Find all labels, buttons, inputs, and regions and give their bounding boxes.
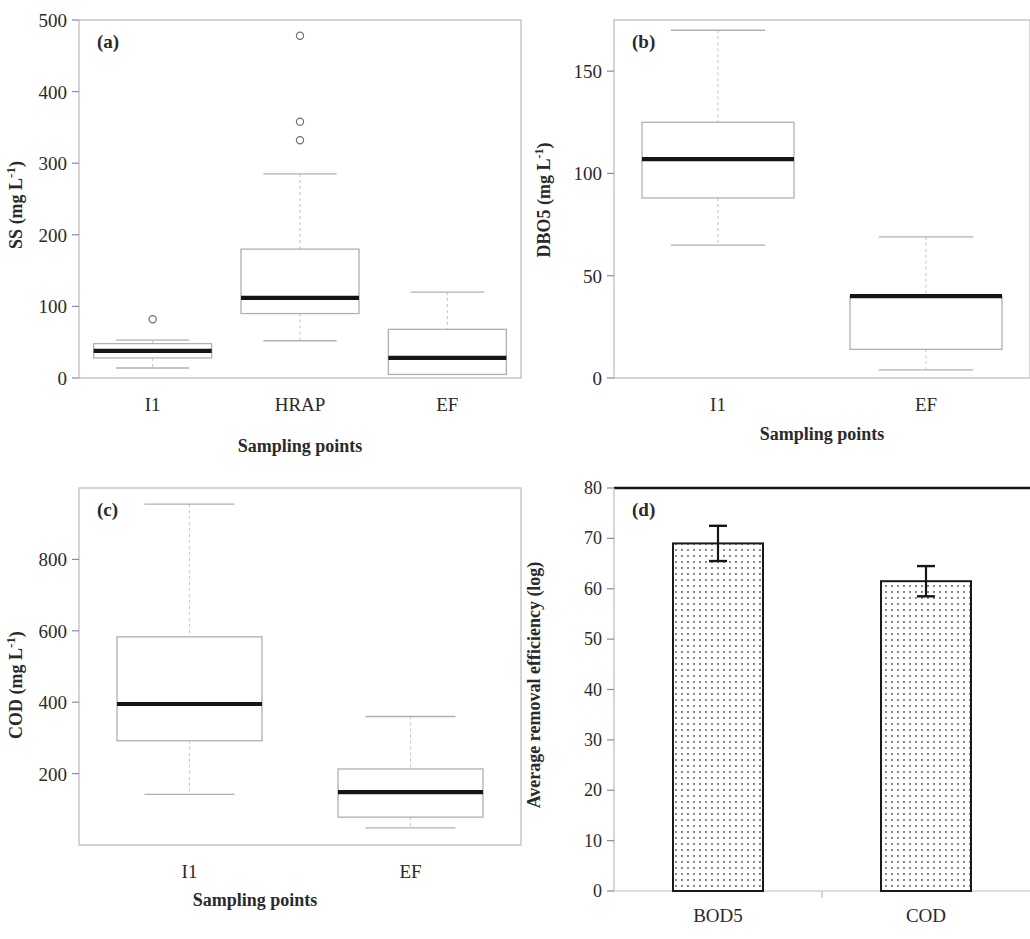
y-tick-label: 80: [584, 478, 602, 498]
svg-text:DBO5 (mg L-1): DBO5 (mg L-1): [532, 142, 555, 257]
y-axis-title: COD (mg L-1): [3, 631, 28, 739]
y-tick-label: 20: [584, 780, 602, 800]
y-axis-ticks: 01020304050607080: [584, 478, 614, 901]
svg-text:Average removal efficiency (lo: Average removal efficiency (log): [524, 562, 545, 809]
x-category-label: COD: [906, 905, 946, 926]
panel-d: 01020304050607080BOD5COD(d)Organic param…: [500, 470, 1030, 939]
panel-letter: (b): [632, 31, 655, 53]
y-tick-label: 100: [39, 296, 68, 317]
x-axis-title: Sampling points: [193, 890, 318, 910]
panel-a: 0100200300400500I1HRAPEF(a)Sampling poin…: [0, 0, 530, 470]
y-tick-label: 800: [39, 549, 68, 570]
y-tick-label: 70: [584, 528, 602, 548]
y-tick-label: 600: [39, 621, 68, 642]
y-tick-label: 50: [583, 266, 602, 287]
box-iqr: [241, 249, 359, 313]
panel-c-chart: 200400600800I1EF(c)Sampling pointsCOD (m…: [0, 470, 530, 939]
y-tick-label: 150: [574, 61, 603, 82]
plot-area: 01020304050607080BOD5COD(d): [584, 478, 1030, 926]
panel-letter: (a): [97, 31, 119, 53]
y-tick-label: 400: [39, 692, 68, 713]
x-category-label: I1: [145, 394, 161, 415]
y-tick-label: 0: [58, 368, 68, 389]
y-axis-ticks: 0100200300400500: [39, 10, 80, 389]
y-axis-title: SS (mg L-1): [3, 161, 28, 249]
panel-b: 050100150I1EF(b)Sampling pointsDBO5 (mg …: [500, 0, 1030, 470]
x-category-label: EF: [436, 394, 458, 415]
svg-text:COD (mg L-1): COD (mg L-1): [3, 631, 28, 739]
x-axis-title: Sampling points: [238, 436, 363, 456]
x-category-label: I1: [710, 394, 726, 415]
y-tick-label: 50: [584, 629, 602, 649]
y-tick-label: 0: [593, 368, 603, 389]
panel-d-chart: 01020304050607080BOD5COD(d)Organic param…: [500, 470, 1030, 939]
bar-rect: [881, 581, 971, 891]
x-category-label: BOD5: [693, 905, 743, 926]
y-axis-ticks: 200400600800: [39, 549, 80, 784]
bar-BOD5: [673, 526, 763, 891]
y-tick-label: 500: [39, 10, 68, 31]
x-category-label: I1: [182, 861, 198, 882]
y-axis-title: DBO5 (mg L-1): [532, 142, 555, 257]
x-category-label: EF: [399, 861, 421, 882]
y-tick-label: 100: [574, 163, 603, 184]
y-tick-label: 40: [584, 680, 602, 700]
x-axis-title: Sampling points: [760, 424, 885, 444]
x-category-label: EF: [915, 394, 937, 415]
box-iqr: [850, 296, 1002, 349]
y-tick-label: 30: [584, 730, 602, 750]
bar-rect: [673, 543, 763, 891]
svg-text:SS (mg L-1): SS (mg L-1): [3, 161, 28, 249]
y-axis-title: Average removal efficiency (log): [524, 562, 545, 809]
box-iqr: [388, 329, 506, 374]
y-tick-label: 400: [39, 82, 68, 103]
y-tick-label: 10: [584, 831, 602, 851]
plot-area: 200400600800I1EF(c): [39, 488, 522, 882]
bar-COD: [881, 566, 971, 891]
plot-area: 050100150I1EF(b): [574, 20, 1030, 415]
x-category-label: HRAP: [275, 394, 326, 415]
y-tick-label: 0: [593, 881, 602, 901]
plot-area: 0100200300400500I1HRAPEF(a): [39, 10, 522, 415]
box-iqr: [117, 637, 262, 741]
y-tick-label: 60: [584, 579, 602, 599]
y-tick-label: 200: [39, 225, 68, 246]
panel-b-chart: 050100150I1EF(b)Sampling pointsDBO5 (mg …: [500, 0, 1030, 470]
y-tick-label: 300: [39, 153, 68, 174]
y-axis-ticks: 050100150: [574, 61, 615, 389]
panel-letter: (c): [97, 499, 118, 521]
figure-container: 0100200300400500I1HRAPEF(a)Sampling poin…: [0, 0, 1030, 939]
y-tick-label: 200: [39, 764, 68, 785]
panel-letter: (d): [632, 499, 655, 521]
panel-a-chart: 0100200300400500I1HRAPEF(a)Sampling poin…: [0, 0, 530, 470]
panel-c: 200400600800I1EF(c)Sampling pointsCOD (m…: [0, 470, 530, 939]
